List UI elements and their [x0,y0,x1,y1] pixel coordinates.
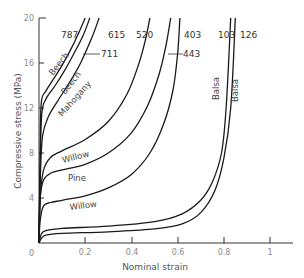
y-tick-label: 16 [24,59,34,68]
y-tick-labels: 20 16 12 8 4 0 [24,14,34,258]
curves [39,18,235,243]
stress-strain-chart: 20 16 12 8 4 0 0.2 0.4 0.6 0.8 1 Nominal… [0,0,304,278]
x-tick-label: 0.2 [79,248,92,257]
y-axis-title: Compressive stress (MPa) [13,73,23,189]
density-label-520: 520 [136,30,153,40]
density-label-443: 443 [183,49,200,59]
curve-balsa-103 [39,18,231,243]
y-tick-label: 8 [29,149,34,158]
species-label-willow-520: Willow [61,149,90,165]
y-tick-label: 0 [29,249,34,258]
density-label-103: 103 [218,30,235,40]
y-tick-label: 4 [29,194,34,203]
x-tick-label: 0.8 [218,248,231,257]
density-label-126: 126 [240,30,257,40]
x-tick-label: 1 [267,248,272,257]
x-tick-labels: 0.2 0.4 0.6 0.8 1 [79,248,273,257]
x-tick-label: 0.6 [172,248,185,257]
density-label-787: 787 [61,30,78,40]
density-label-615: 615 [108,30,125,40]
species-label-balsa-126: Balsa [230,79,240,102]
curve-balsa-126 [39,18,235,243]
density-label-403: 403 [184,30,201,40]
x-axis-title: Nominal strain [122,262,188,272]
species-label-pine: Pine [68,173,86,183]
y-tick-label: 20 [24,14,34,23]
species-label-beech-787: Beech [47,50,71,77]
species-label-willow-443: Willow [69,199,98,212]
density-label-711: 711 [101,49,118,59]
y-tick-label: 12 [24,104,34,113]
x-tick-label: 0.4 [126,248,139,257]
species-label-balsa-103: Balsa [211,77,221,100]
